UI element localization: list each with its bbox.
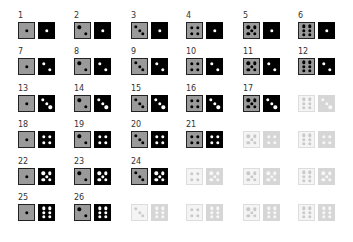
pip bbox=[138, 211, 141, 214]
pip bbox=[134, 98, 137, 101]
pip bbox=[308, 142, 311, 145]
dice-pair-cell-8[interactable]: 8 bbox=[74, 47, 114, 81]
pip bbox=[322, 135, 325, 138]
black-die-3-icon bbox=[94, 95, 111, 112]
dice-pair-cell-14[interactable]: 14 bbox=[74, 84, 114, 118]
pip bbox=[322, 215, 325, 218]
dice-pair-cell-21[interactable]: 21 bbox=[186, 120, 226, 154]
pip bbox=[196, 214, 199, 217]
pip bbox=[270, 29, 273, 32]
pip bbox=[308, 25, 311, 28]
dice-pair-cell-16[interactable]: 16 bbox=[186, 84, 226, 118]
pip bbox=[161, 135, 164, 138]
pip bbox=[253, 134, 256, 137]
pip bbox=[155, 135, 158, 138]
pip bbox=[84, 178, 87, 181]
pip bbox=[141, 68, 144, 71]
dice-pair-cell-6[interactable]: 6 bbox=[298, 11, 338, 45]
dice-pair-cell-3[interactable]: 3 bbox=[131, 11, 171, 45]
dice-pair-cell-15[interactable]: 15 bbox=[131, 84, 171, 118]
pip bbox=[274, 106, 277, 109]
pip bbox=[210, 215, 213, 218]
pip bbox=[302, 106, 305, 109]
pip bbox=[42, 207, 45, 210]
dice-pair-grid: 1234567891011121314151617181920212223242… bbox=[0, 0, 353, 242]
dice-pair-cell-11[interactable]: 11 bbox=[243, 47, 283, 81]
black-die-6-icon bbox=[151, 204, 168, 221]
pip bbox=[141, 32, 144, 35]
pip bbox=[138, 29, 141, 32]
dice-pair-cell-23[interactable]: 23 bbox=[74, 157, 114, 191]
pip bbox=[216, 215, 219, 218]
pip bbox=[42, 215, 45, 218]
dice-pair-cell-26[interactable]: 26 bbox=[74, 193, 114, 227]
pip bbox=[196, 208, 199, 211]
pip bbox=[190, 214, 193, 217]
dice-pair-cell-1[interactable]: 1 bbox=[18, 11, 58, 45]
dice-pair-cell-19[interactable]: 19 bbox=[74, 120, 114, 154]
pip bbox=[302, 33, 305, 36]
dice-pair-cell-10[interactable]: 10 bbox=[186, 47, 226, 81]
cell-number-label: 6 bbox=[298, 11, 303, 20]
pip bbox=[246, 141, 249, 144]
dice-pair-cell-12[interactable]: 12 bbox=[298, 47, 338, 81]
dice-pair-cell-2[interactable]: 2 bbox=[74, 11, 114, 45]
dice-pair-cell-24[interactable]: 24 bbox=[131, 157, 171, 191]
pip bbox=[308, 98, 311, 101]
dice-pair-cell-4[interactable]: 4 bbox=[186, 11, 226, 45]
pip bbox=[253, 141, 256, 144]
cell-number-label: 8 bbox=[74, 47, 79, 56]
dice-pair-cell-13[interactable]: 13 bbox=[18, 84, 58, 118]
dice-pair-cell-faded bbox=[298, 157, 338, 191]
pip bbox=[48, 141, 51, 144]
pip bbox=[25, 65, 28, 68]
pip bbox=[104, 178, 107, 181]
pip bbox=[138, 175, 141, 178]
pip bbox=[101, 29, 104, 32]
black-die-1-icon bbox=[94, 22, 111, 39]
pip bbox=[322, 211, 325, 214]
cell-number-label: 14 bbox=[74, 84, 84, 93]
pip bbox=[77, 61, 80, 64]
pip bbox=[45, 29, 48, 32]
gray-die-2-icon bbox=[74, 204, 91, 221]
gray-die-6-icon bbox=[298, 168, 315, 185]
pip bbox=[267, 211, 270, 214]
pip bbox=[210, 62, 213, 65]
pip bbox=[161, 68, 164, 71]
pip bbox=[138, 138, 141, 141]
pip bbox=[42, 141, 45, 144]
dice-pair-cell-18[interactable]: 18 bbox=[18, 120, 58, 154]
pip bbox=[161, 141, 164, 144]
cell-number-label: 4 bbox=[186, 11, 191, 20]
cell-number-label: 25 bbox=[18, 193, 28, 202]
dice-pair-cell-7[interactable]: 7 bbox=[18, 47, 58, 81]
pip bbox=[155, 62, 158, 65]
pip bbox=[25, 138, 28, 141]
cell-number-label: 18 bbox=[18, 120, 28, 129]
dice-pair-cell-17[interactable]: 17 bbox=[243, 84, 283, 118]
pip bbox=[217, 106, 220, 109]
dice-pair-cell-5[interactable]: 5 bbox=[243, 11, 283, 45]
pip bbox=[209, 98, 212, 101]
pip bbox=[328, 171, 331, 174]
black-die-1-icon bbox=[151, 22, 168, 39]
black-die-4-icon bbox=[263, 131, 280, 148]
dice-pair-cell-faded bbox=[298, 84, 338, 118]
black-die-2-icon bbox=[94, 58, 111, 75]
dice-pair-cell-25[interactable]: 25 bbox=[18, 193, 58, 227]
dice-pair-cell-9[interactable]: 9 bbox=[131, 47, 171, 81]
pip bbox=[328, 68, 331, 71]
gray-die-4-icon bbox=[186, 22, 203, 39]
pip bbox=[161, 207, 164, 210]
pip bbox=[216, 171, 219, 174]
pip bbox=[302, 65, 305, 68]
pip bbox=[104, 171, 107, 174]
pip bbox=[216, 135, 219, 138]
dice-pair-cell-20[interactable]: 20 bbox=[131, 120, 171, 154]
pip bbox=[196, 62, 199, 65]
dice-pair-cell-22[interactable]: 22 bbox=[18, 157, 58, 191]
pip bbox=[246, 214, 249, 217]
pip bbox=[190, 68, 193, 71]
black-die-2-icon bbox=[318, 58, 335, 75]
